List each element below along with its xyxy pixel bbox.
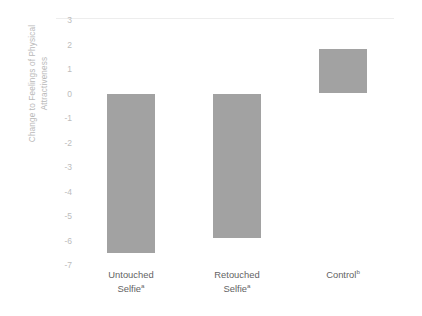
bar [107,94,155,253]
y-axis-tick-label: 3 [50,15,72,25]
x-axis-category-line-2: Selfiea [108,282,153,296]
bar [319,49,367,93]
y-axis-tick-label: -2 [50,138,72,148]
y-axis-tick-label: -4 [50,187,72,197]
y-axis-title-line-2: Attractiveness [38,0,50,184]
x-axis-category-line-2: Selfiea [214,282,259,296]
x-axis-category-label: Controlb [326,268,360,282]
y-axis-tick-label: -3 [50,162,72,172]
x-axis-category-line-1: Controlb [326,269,360,280]
x-axis-category-label: RetouchedSelfiea [214,268,259,295]
y-axis-title: Change to Feelings of Physical Attractiv… [27,0,50,184]
x-axis-category-superscript: a [247,281,250,288]
x-axis-category-line-1: Retouched [214,269,259,280]
x-axis-category-superscript: b [356,268,359,275]
x-axis-category-line-1: Untouched [108,269,153,280]
y-axis-tick-label: -1 [50,113,72,123]
y-axis-tick-label: -7 [50,260,72,270]
y-axis-tick-label: -6 [50,236,72,246]
top-rule [56,18,394,19]
bar [213,94,261,239]
chart-figure: Change to Feelings of Physical Attractiv… [0,0,422,316]
y-axis-tick-label: 0 [50,89,72,99]
x-axis-category-superscript: a [141,281,144,288]
y-axis-tick-label: 1 [50,64,72,74]
y-axis-title-line-1: Change to Feelings of Physical [28,25,37,142]
x-axis-category-label: UntouchedSelfiea [108,268,153,295]
plot-area: 3210-1-2-3-4-5-6-7 [78,20,396,265]
x-axis-category-labels: UntouchedSelfieaRetouchedSelfieaControlb [78,268,396,314]
y-axis-tick-label: 2 [50,40,72,50]
y-axis-tick-label: -5 [50,211,72,221]
